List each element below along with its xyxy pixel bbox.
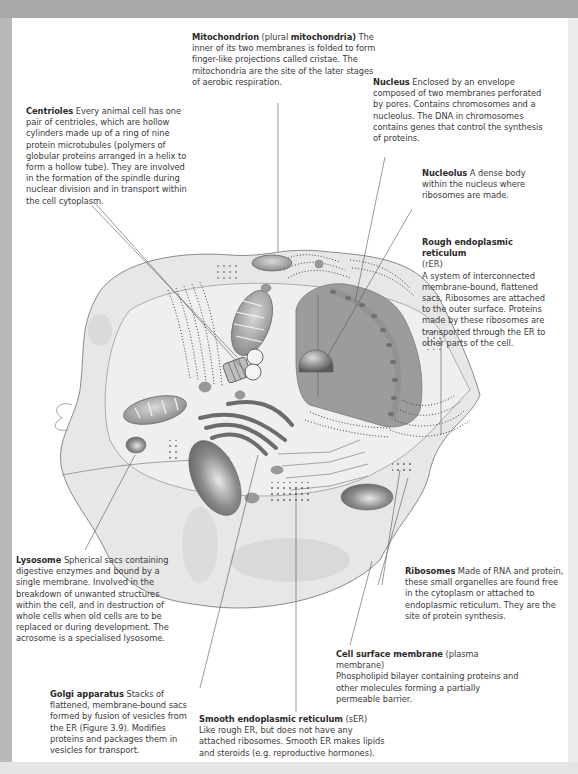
term-nucleus: Nucleus xyxy=(373,77,410,87)
term-golgi-apparatus: Golgi apparatus xyxy=(50,689,124,699)
lysosome-shape xyxy=(126,437,146,453)
term-cell-surface-membrane: Cell surface membrane xyxy=(336,649,443,659)
label-cell-surface-membrane: Cell surface membrane (plasma membrane) … xyxy=(336,649,521,705)
term-centrioles: Centrioles xyxy=(26,106,73,116)
label-smooth-er: Smooth endoplasmic reticulum (sER) Like … xyxy=(199,714,389,759)
label-text: Spherical sacs containing digestive enzy… xyxy=(16,555,169,643)
label-text: (plural xyxy=(259,32,291,42)
term-nucleolus: Nucleolus xyxy=(422,168,467,178)
label-ribosomes: Ribosomes Made of RNA and protein, these… xyxy=(405,566,565,622)
label-lysosome: Lysosome Spherical sacs containing diges… xyxy=(16,555,176,645)
term-lysosome: Lysosome xyxy=(16,555,61,565)
label-abbr: (rER) xyxy=(422,259,443,269)
label-text: Phospholipid bilayer containing proteins… xyxy=(336,671,519,703)
label-text: Every animal cell has one pair of centri… xyxy=(26,106,187,206)
label-nucleolus: Nucleolus A dense body within the nucleu… xyxy=(422,168,527,202)
label-rough-er: Rough endoplasmic reticulum (rER) A syst… xyxy=(422,237,552,349)
term-smooth-er: Smooth endoplasmic reticulum xyxy=(199,714,343,724)
term-mitochondria: mitochondria) xyxy=(291,32,356,42)
label-centrioles: Centrioles Every animal cell has one pai… xyxy=(26,106,192,207)
term-rough-er: Rough endoplasmic reticulum xyxy=(422,237,513,258)
label-mitochondrion: Mitochondrion (plural mitochondria) The … xyxy=(192,32,377,88)
label-abbr: (sER) xyxy=(343,714,367,724)
label-golgi-apparatus: Golgi apparatus Stacks of flattened, mem… xyxy=(50,689,195,756)
label-nucleus: Nucleus Enclosed by an envelope composed… xyxy=(373,77,548,144)
label-text: Like rough ER, but does not have any att… xyxy=(199,725,384,757)
term-mitochondrion: Mitochondrion xyxy=(192,32,259,42)
label-text: A system of interconnected membrane-boun… xyxy=(422,271,545,348)
term-ribosomes: Ribosomes xyxy=(405,566,455,576)
